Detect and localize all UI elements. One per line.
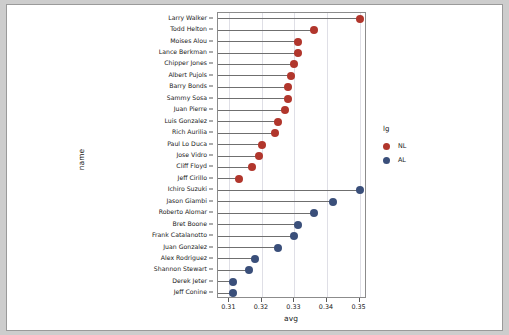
y-tick-label: Derek Jeter — [172, 278, 207, 284]
data-point[interactable] — [245, 266, 253, 274]
y-tick-mark — [209, 177, 213, 178]
y-tick-label: Jeff Conine — [174, 289, 207, 295]
legend-item-al[interactable]: AL — [383, 153, 443, 167]
data-point[interactable] — [229, 289, 237, 297]
y-tick-label: Moises Alou — [170, 37, 207, 43]
data-row — [218, 276, 365, 287]
x-tick-label: 0.33 — [286, 303, 300, 311]
data-row — [218, 59, 365, 70]
x-tick-mark — [228, 298, 229, 302]
legend-label-nl: NL — [398, 142, 406, 150]
data-point[interactable] — [284, 95, 292, 103]
data-point[interactable] — [258, 141, 266, 149]
y-tick-label: Albert Pujols — [168, 72, 207, 78]
y-tick-label: Juan Pierre — [174, 106, 207, 112]
stem-line — [218, 213, 314, 214]
stem-line — [218, 18, 360, 19]
data-row — [218, 219, 365, 230]
data-point[interactable] — [310, 26, 318, 34]
data-point[interactable] — [310, 209, 318, 217]
data-row — [218, 253, 365, 264]
data-point[interactable] — [274, 118, 282, 126]
y-tick-mark — [209, 212, 213, 213]
x-tick-label: 0.35 — [351, 303, 365, 311]
legend-item-nl[interactable]: NL — [383, 139, 443, 153]
data-point[interactable] — [281, 106, 289, 114]
y-tick-mark — [209, 223, 213, 224]
data-row — [218, 196, 365, 207]
y-tick-mark — [209, 29, 213, 30]
data-row — [218, 25, 365, 36]
stem-line — [218, 201, 333, 202]
data-row — [218, 139, 365, 150]
y-tick-mark — [209, 132, 213, 133]
data-point[interactable] — [274, 244, 282, 252]
stem-line — [218, 41, 298, 42]
data-point[interactable] — [290, 232, 298, 240]
data-point[interactable] — [294, 221, 302, 229]
y-tick-label: Bret Boone — [173, 221, 207, 227]
y-tick-label: Chipper Jones — [164, 60, 207, 66]
y-tick-label: Sammy Sosa — [167, 95, 207, 101]
y-tick-mark — [209, 280, 213, 281]
legend: lg NL AL — [383, 125, 443, 167]
data-point[interactable] — [356, 186, 364, 194]
data-point[interactable] — [356, 15, 364, 23]
data-row — [218, 242, 365, 253]
data-point[interactable] — [229, 278, 237, 286]
data-point[interactable] — [235, 175, 243, 183]
data-row — [218, 93, 365, 104]
stem-line — [218, 30, 314, 31]
y-tick-mark — [209, 166, 213, 167]
x-tick-mark — [326, 298, 327, 302]
stem-line — [218, 167, 252, 168]
stem-line — [218, 53, 298, 54]
y-tick-label: Paul Lo Duca — [167, 140, 207, 146]
data-point[interactable] — [284, 83, 292, 91]
x-tick-mark — [293, 298, 294, 302]
y-tick-label: Roberto Alomar — [159, 209, 207, 215]
data-point[interactable] — [329, 198, 337, 206]
y-tick-mark — [209, 74, 213, 75]
data-point[interactable] — [290, 60, 298, 68]
data-point[interactable] — [251, 255, 259, 263]
data-point[interactable] — [294, 49, 302, 57]
plot-area — [217, 12, 366, 298]
data-row — [218, 82, 365, 93]
y-tick-mark — [209, 200, 213, 201]
data-row — [218, 208, 365, 219]
y-tick-label: Barry Bonds — [169, 83, 207, 89]
y-tick-label: Frank Catalanotto — [152, 232, 207, 238]
y-tick-label: Luis Gonzalez — [165, 118, 208, 124]
stem-line — [218, 258, 255, 259]
data-row — [218, 36, 365, 47]
y-tick-label: Juan Gonzalez — [163, 243, 207, 249]
data-point[interactable] — [255, 152, 263, 160]
data-point[interactable] — [294, 38, 302, 46]
x-axis-title: avg — [284, 314, 298, 323]
data-row — [218, 105, 365, 116]
stem-line — [218, 75, 291, 76]
y-tick-label: Shannon Stewart — [154, 266, 207, 272]
y-tick-mark — [209, 269, 213, 270]
y-tick-label: Todd Helton — [170, 26, 207, 32]
x-tick-mark — [261, 298, 262, 302]
y-tick-label: Jose Vidro — [176, 152, 207, 158]
y-tick-label: Alex Rodriguez — [161, 255, 207, 261]
data-row — [218, 162, 365, 173]
stem-line — [218, 87, 288, 88]
y-tick-label: Larry Walker — [168, 15, 207, 21]
y-tick-mark — [209, 109, 213, 110]
y-tick-mark — [209, 235, 213, 236]
stem-line — [218, 121, 278, 122]
y-tick-label: Jeff Cirillo — [178, 175, 207, 181]
stem-line — [218, 156, 259, 157]
y-tick-mark — [209, 40, 213, 41]
data-row — [218, 185, 365, 196]
data-point[interactable] — [248, 163, 256, 171]
data-point[interactable] — [287, 72, 295, 80]
y-tick-label: Jason Giambi — [167, 198, 208, 204]
data-point[interactable] — [271, 129, 279, 137]
y-tick-mark — [209, 257, 213, 258]
stem-line — [218, 224, 298, 225]
